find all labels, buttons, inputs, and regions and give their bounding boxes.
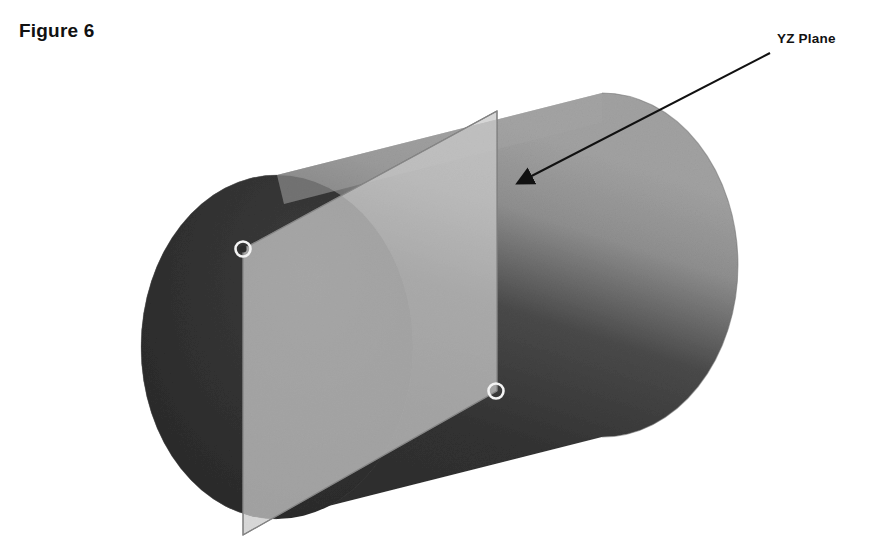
- intersection-marker-upper-core: [239, 245, 246, 252]
- figure-caption: Figure 6: [19, 20, 95, 42]
- plane-callout-label: YZ Plane: [777, 31, 836, 46]
- figure-page: Figure 6 YZ Plane: [0, 0, 884, 560]
- cylinder-plane-diagram: [0, 0, 884, 560]
